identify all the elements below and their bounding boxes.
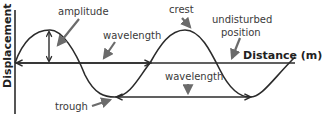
undisturbed-label-line1: undisturbed [212,14,272,25]
crest-pointer-icon [182,18,190,27]
wavelength-top-label: wavelength [103,30,161,41]
undisturbed-label-line2: position [221,27,261,38]
crest-label: crest [169,4,194,15]
amplitude-pointer-icon [58,19,79,45]
wave-diagram: Displacement Distance (m) amplitude wave… [0,0,322,114]
undisturbed-pointer-icon [232,38,240,58]
amplitude-label: amplitude [58,6,109,17]
wavelength-bottom-label: wavelength [165,71,223,82]
y-axis-label: Displacement [1,3,14,88]
trough-pointer-icon [92,100,110,106]
wavelength-top-pointer-icon [104,42,115,58]
x-axis-label: Distance (m) [243,49,322,62]
trough-label: trough [55,101,88,112]
